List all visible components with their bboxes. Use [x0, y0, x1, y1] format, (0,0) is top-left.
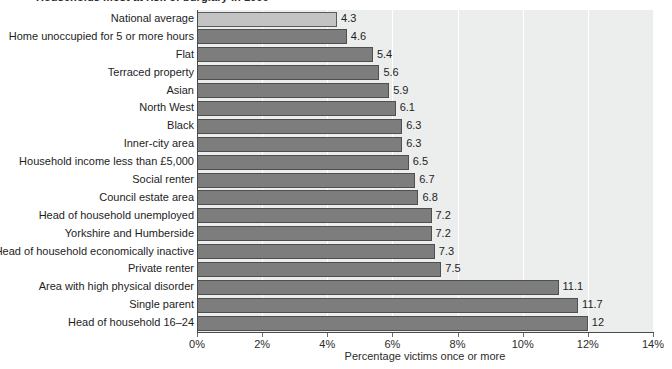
category-label: Area with high physical disorder — [39, 280, 194, 292]
x-axis-tick-label: 2% — [254, 338, 270, 350]
bar-value-label: 4.3 — [341, 12, 356, 24]
category-label: Terraced property — [108, 66, 194, 78]
category-label: Flat — [176, 48, 194, 60]
bar-row: Head of household unemployed7.2 — [0, 207, 672, 227]
bar-row: Asian5.9 — [0, 82, 672, 102]
bar-row: Social renter6.7 — [0, 171, 672, 191]
x-axis-tick — [327, 333, 328, 337]
category-label: National average — [111, 12, 194, 24]
bar-value-label: 6.3 — [406, 137, 421, 149]
category-label: Asian — [166, 84, 194, 96]
bar-row: Area with high physical disorder11.1 — [0, 278, 672, 298]
bar — [197, 29, 347, 44]
bar — [197, 47, 373, 62]
bar-row: North West6.1 — [0, 99, 672, 119]
bar-row: Head of household economically inactive7… — [0, 243, 672, 263]
x-axis-tick-label: 0% — [189, 338, 205, 350]
bar-value-label: 6.8 — [422, 191, 437, 203]
bar-value-label: 7.5 — [445, 262, 460, 274]
x-axis-title: Percentage victims once or more — [345, 350, 506, 362]
bar — [197, 155, 409, 170]
bar-value-label: 5.9 — [393, 84, 408, 96]
x-axis-tick — [197, 333, 198, 337]
bar-value-label: 7.3 — [439, 245, 454, 257]
bar — [197, 316, 588, 331]
x-axis-line — [197, 332, 654, 333]
bar-value-label: 12 — [592, 316, 604, 328]
bar-value-label: 6.5 — [413, 155, 428, 167]
bar — [197, 173, 415, 188]
bar — [197, 262, 441, 277]
bar-value-label: 7.2 — [436, 227, 451, 239]
category-label: Private renter — [128, 262, 194, 274]
chart-title: Households most at risk of burglary in 1… — [36, 0, 269, 3]
bar — [197, 83, 389, 98]
x-axis-tick-label: 8% — [450, 338, 466, 350]
bar — [197, 298, 578, 313]
bar — [197, 244, 435, 259]
bar-value-label: 11.1 — [563, 280, 584, 292]
x-axis-tick — [458, 333, 459, 337]
bar-row: National average4.3 — [0, 10, 672, 30]
category-label: Yorkshire and Humberside — [65, 227, 194, 239]
bar — [197, 137, 402, 152]
category-label: Inner-city area — [124, 137, 194, 149]
x-axis-tick-label: 10% — [512, 338, 534, 350]
bar — [197, 208, 432, 223]
bar-row: Household income less than £5,0006.5 — [0, 153, 672, 173]
category-label: Social renter — [132, 173, 194, 185]
bar-row: Flat5.4 — [0, 46, 672, 66]
x-axis-tick — [262, 333, 263, 337]
bar-row: Head of household 16–2412 — [0, 314, 672, 334]
category-label: Single parent — [129, 298, 194, 310]
category-label: Black — [167, 119, 194, 131]
x-axis-tick — [588, 333, 589, 337]
bar-value-label: 7.2 — [436, 209, 451, 221]
x-axis-tick — [523, 333, 524, 337]
bar-row: Terraced property5.6 — [0, 64, 672, 84]
bar-row: Yorkshire and Humberside7.2 — [0, 225, 672, 245]
y-axis-line — [197, 10, 198, 333]
bar — [197, 190, 418, 205]
bar-value-label: 5.6 — [383, 66, 398, 78]
bar — [197, 280, 559, 295]
x-axis-tick — [653, 333, 654, 337]
x-axis-tick-label: 6% — [384, 338, 400, 350]
category-label: Head of household economically inactive — [0, 245, 194, 257]
bar-value-label: 11.7 — [582, 298, 603, 310]
x-axis-tick — [392, 333, 393, 337]
bar-value-label: 6.7 — [419, 173, 434, 185]
bar — [197, 119, 402, 134]
bar-row: Private renter7.5 — [0, 260, 672, 280]
bar — [197, 12, 337, 27]
bar-row: Council estate area6.8 — [0, 189, 672, 209]
bar-row: Single parent11.7 — [0, 296, 672, 316]
bar — [197, 226, 432, 241]
bar-chart: Households most at risk of burglary in 1… — [0, 0, 672, 369]
category-label: Head of household unemployed — [39, 209, 194, 221]
x-axis-tick-label: 12% — [577, 338, 599, 350]
category-label: Household income less than £5,000 — [19, 155, 194, 167]
bar-row: Home unoccupied for 5 or more hours4.6 — [0, 28, 672, 48]
category-label: North West — [139, 101, 194, 113]
x-axis-tick-label: 4% — [319, 338, 335, 350]
bar-value-label: 5.4 — [377, 48, 392, 60]
bar-row: Black6.3 — [0, 117, 672, 137]
bar-value-label: 4.6 — [351, 30, 366, 42]
category-label: Home unoccupied for 5 or more hours — [9, 30, 194, 42]
bar-row: Inner-city area6.3 — [0, 135, 672, 155]
x-axis-tick-label: 14% — [642, 338, 664, 350]
bar-value-label: 6.3 — [406, 119, 421, 131]
category-label: Council estate area — [99, 191, 194, 203]
category-label: Head of household 16–24 — [68, 316, 194, 328]
bar — [197, 101, 396, 116]
bar — [197, 65, 379, 80]
bar-value-label: 6.1 — [400, 101, 415, 113]
